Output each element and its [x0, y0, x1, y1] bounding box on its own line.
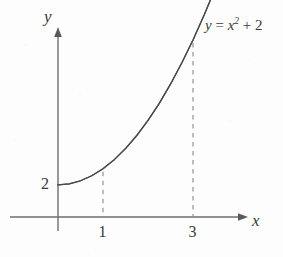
plot-area — [0, 0, 283, 257]
curve-label-y: y — [205, 17, 212, 33]
y-axis-arrowhead — [54, 27, 62, 37]
x-tick-label-3: 3 — [189, 224, 197, 240]
x-axis-arrowhead — [238, 213, 248, 221]
x-axis-label: x — [252, 212, 260, 229]
function-curve — [58, 0, 213, 185]
graph-figure: y x y = x2 + 2 2 1 3 — [0, 0, 283, 257]
curve-equation-label: y = x2 + 2 — [205, 18, 263, 33]
curve-label-plus: + — [239, 17, 255, 33]
curve-label-constant: 2 — [255, 17, 263, 33]
y-axis-label: y — [44, 8, 52, 25]
function-curve-samples — [58, 0, 213, 185]
curve-label-equals: = — [212, 17, 228, 33]
y-tick-label-2: 2 — [41, 176, 49, 192]
x-tick-label-1: 1 — [99, 224, 107, 240]
